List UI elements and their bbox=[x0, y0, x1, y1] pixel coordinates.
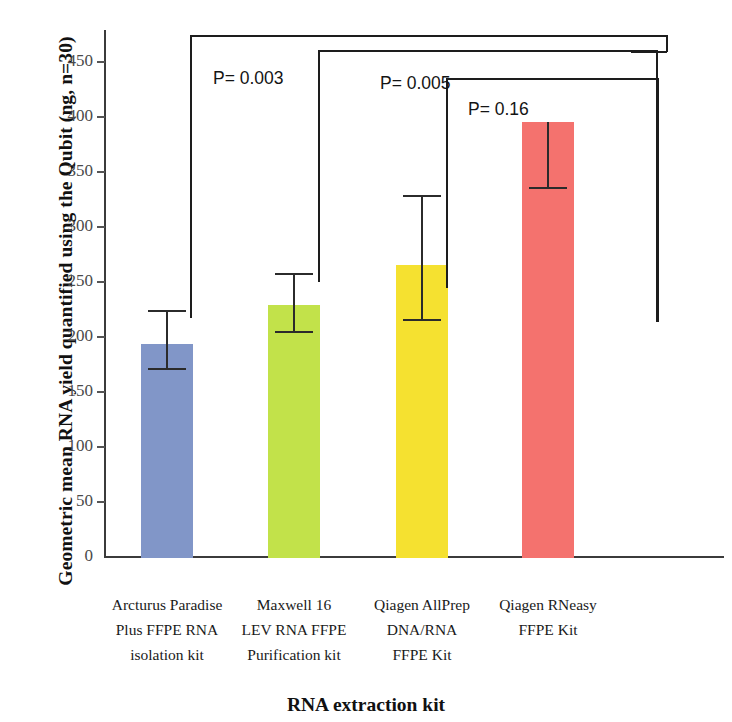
category-line: Qiagen RNeasy bbox=[468, 592, 628, 617]
error-bar-cap-lower bbox=[275, 331, 313, 333]
y-axis-line bbox=[104, 30, 106, 558]
error-bar-maxwell bbox=[293, 274, 295, 332]
y-tick-label: 300 bbox=[31, 216, 93, 236]
bar-arcturus-paradise bbox=[141, 344, 193, 558]
error-bar-cap-upper bbox=[403, 195, 441, 197]
tick-mark bbox=[97, 171, 105, 172]
pvalue-label-p016: P= 0.16 bbox=[468, 99, 529, 120]
tick-mark bbox=[97, 61, 105, 62]
x-axis-title: RNA extraction kit bbox=[0, 694, 732, 716]
y-tick-label: 350 bbox=[31, 161, 93, 181]
tick-mark bbox=[97, 226, 105, 227]
category-line: FFPE Kit bbox=[342, 642, 502, 667]
pvalue-label-p003: P= 0.003 bbox=[213, 68, 284, 89]
error-bar-cap-lower bbox=[529, 187, 567, 189]
y-tick-label: 0 bbox=[31, 546, 93, 566]
bracket-left-arm-p016 bbox=[446, 78, 448, 288]
tick-mark bbox=[97, 391, 105, 392]
tick-mark bbox=[97, 116, 105, 117]
tick-mark bbox=[97, 281, 105, 282]
y-tick-label: 250 bbox=[31, 271, 93, 291]
x-category-label-qiagen-rneasy: Qiagen RNeasy FFPE Kit bbox=[468, 592, 628, 642]
bar-chart: Geometric mean RNA yield quantified usin… bbox=[0, 0, 732, 722]
bracket-right-arm-p003 bbox=[666, 35, 668, 52]
category-line: FFPE Kit bbox=[468, 617, 628, 642]
bracket-top-p003 bbox=[190, 35, 667, 37]
bracket-top-p005 bbox=[318, 50, 657, 52]
bracket-top-p016 bbox=[446, 78, 658, 80]
error-bar-qiagen-allprep bbox=[421, 196, 423, 320]
y-tick-label: 200 bbox=[31, 326, 93, 346]
bar-maxwell-16 bbox=[268, 305, 320, 558]
y-tick-label: 400 bbox=[31, 106, 93, 126]
bracket-left-arm-p003 bbox=[190, 35, 192, 318]
y-tick-label: 450 bbox=[31, 51, 93, 71]
tick-mark bbox=[97, 501, 105, 502]
error-bar-arcturus bbox=[166, 311, 168, 369]
error-bar-cap-upper bbox=[275, 273, 313, 275]
pvalue-label-p005: P= 0.005 bbox=[380, 73, 451, 94]
error-bar-qiagen-rneasy bbox=[547, 122, 549, 188]
bracket-right-arm-p016 bbox=[657, 78, 659, 322]
tick-mark bbox=[97, 336, 105, 337]
y-tick-label: 50 bbox=[31, 491, 93, 511]
y-tick-label: 150 bbox=[31, 381, 93, 401]
y-tick-label: 100 bbox=[31, 436, 93, 456]
error-bar-cap-upper bbox=[148, 310, 186, 312]
error-bar-cap-lower bbox=[403, 319, 441, 321]
tick-mark bbox=[97, 446, 105, 447]
error-bar-cap-lower bbox=[148, 368, 186, 370]
bracket-left-arm-p005 bbox=[318, 50, 320, 282]
